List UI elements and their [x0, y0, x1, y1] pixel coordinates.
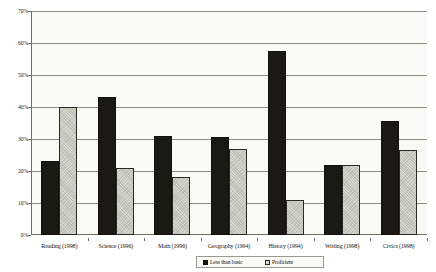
x-axis-category-label: Science (1996)	[98, 242, 133, 250]
x-axis-tick	[144, 238, 145, 241]
bar-group	[144, 11, 201, 235]
legend-entry-proficient: Proficient	[265, 259, 293, 267]
bar-proficient	[229, 149, 247, 235]
bar-proficient	[286, 200, 304, 235]
y-axis-tick-label: 60%	[2, 40, 28, 46]
bar-less-than-basic	[41, 161, 59, 235]
legend-entry-less-than-basic: Less than basic	[203, 259, 243, 267]
x-axis-tick	[314, 238, 315, 241]
bar-proficient	[172, 177, 190, 235]
bar-less-than-basic	[154, 136, 172, 235]
x-axis-tick	[257, 238, 258, 241]
bar-group	[31, 11, 88, 235]
legend-label-proficient: Proficient	[272, 259, 293, 266]
bars-layer	[31, 11, 427, 235]
bar-group	[370, 11, 427, 235]
x-axis-tick	[370, 238, 371, 241]
x-axis-category-label: Math (1996)	[158, 242, 187, 250]
legend-swatch-proficient	[265, 260, 270, 265]
bar-chart: 0%10%20%30%40%50%60%70% Reading (1998)Sc…	[0, 0, 436, 272]
y-axis-tick-label: 30%	[2, 136, 28, 142]
y-axis-tick-label: 40%	[2, 104, 28, 110]
bar-less-than-basic	[98, 97, 116, 235]
bar-proficient	[116, 168, 134, 235]
bar-group	[201, 11, 258, 235]
x-axis-tick	[88, 238, 89, 241]
chart-legend: Less than basic Proficient	[196, 256, 324, 268]
bar-less-than-basic	[381, 121, 399, 235]
bar-group	[314, 11, 371, 235]
x-axis-category-label: History (1994)	[269, 242, 303, 250]
y-axis-tick	[28, 235, 31, 236]
x-axis-tick	[427, 238, 428, 241]
y-axis-tick-label: 50%	[2, 72, 28, 78]
bar-less-than-basic	[324, 165, 342, 235]
x-axis-tick	[201, 238, 202, 241]
bar-less-than-basic	[268, 51, 286, 235]
bar-less-than-basic	[211, 137, 229, 235]
y-axis-tick-label: 10%	[2, 200, 28, 206]
legend-label-less-than-basic: Less than basic	[210, 259, 243, 266]
y-axis-tick-label: 20%	[2, 168, 28, 174]
x-axis-category-label: Geography (1994)	[208, 242, 251, 250]
bar-group	[257, 11, 314, 235]
x-axis: Reading (1998)Science (1996)Math (1996)G…	[31, 238, 427, 254]
y-axis-tick-label: 70%	[2, 8, 28, 14]
y-axis-tick-label: 0%	[2, 232, 28, 238]
bar-proficient	[342, 165, 360, 235]
x-axis-category-label: Writing (1998)	[325, 242, 360, 250]
legend-swatch-less-than-basic	[203, 260, 208, 265]
bar-proficient	[59, 107, 77, 235]
bar-proficient	[399, 150, 417, 235]
bar-group	[88, 11, 145, 235]
x-axis-category-label: Civics (1998)	[383, 242, 415, 250]
x-axis-category-label: Reading (1998)	[41, 242, 77, 250]
